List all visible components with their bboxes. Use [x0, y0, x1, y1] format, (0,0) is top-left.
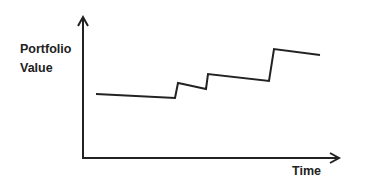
portfolio-value-line: [96, 49, 320, 98]
y-axis: [78, 17, 88, 158]
x-axis: [82, 153, 339, 163]
chart-canvas: [0, 0, 371, 188]
